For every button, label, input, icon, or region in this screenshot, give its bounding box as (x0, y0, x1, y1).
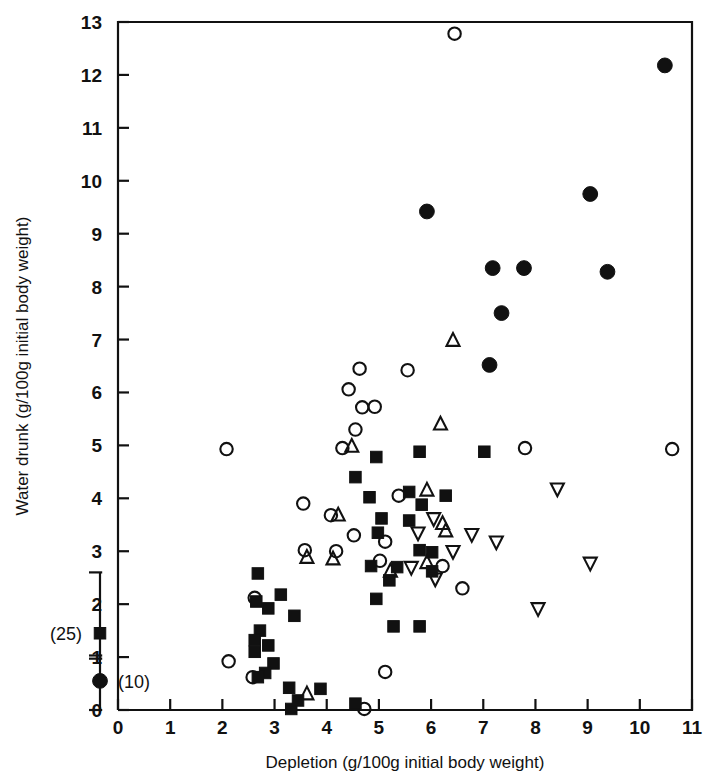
data-point-open-circle[interactable] (353, 362, 365, 374)
y-axis-tick-label: 13 (81, 12, 102, 33)
x-axis-tick-label: 11 (682, 717, 703, 738)
data-point-filled-circle[interactable] (420, 204, 435, 219)
data-point-open-circle[interactable] (222, 655, 234, 667)
data-point-open-circle[interactable] (297, 497, 309, 509)
data-point-filled-square[interactable] (249, 646, 261, 658)
data-point-open-triangle-down[interactable] (465, 529, 478, 542)
data-point-filled-circle[interactable] (657, 58, 672, 73)
data-point-filled-circle[interactable] (494, 306, 509, 321)
y-axis-tick-label: 6 (91, 382, 102, 403)
data-point-filled-square[interactable] (263, 640, 275, 652)
data-point-open-triangle-up[interactable] (300, 687, 313, 700)
data-point-filled-square[interactable] (315, 683, 327, 695)
y-axis-label: Water drunk (g/100g initial body weight) (13, 217, 32, 516)
data-point-filled-square[interactable] (371, 451, 383, 463)
x-axis-tick-label: 2 (217, 717, 228, 738)
data-point-open-circle[interactable] (369, 401, 381, 413)
chart-figure: 01234567891011121301234567891011Depletio… (0, 0, 712, 779)
data-point-open-triangle-down[interactable] (412, 527, 425, 540)
data-point-filled-square[interactable] (414, 446, 426, 458)
data-point-open-circle[interactable] (349, 423, 361, 435)
data-point-open-triangle-up[interactable] (447, 333, 460, 346)
data-point-filled-circle[interactable] (482, 358, 497, 373)
data-point-filled-square[interactable] (275, 589, 287, 601)
summary-marker-circle[interactable] (93, 673, 108, 688)
y-axis-tick-label: 9 (91, 224, 102, 245)
data-point-open-circle[interactable] (356, 401, 368, 413)
y-axis-tick-label: 5 (91, 435, 102, 456)
data-point-open-triangle-up[interactable] (420, 483, 433, 496)
data-point-filled-square[interactable] (403, 515, 415, 527)
data-point-filled-square[interactable] (365, 560, 377, 572)
data-point-open-triangle-down[interactable] (532, 603, 545, 616)
data-point-filled-square[interactable] (414, 621, 426, 633)
data-point-open-circle[interactable] (401, 364, 413, 376)
summary-label: (25) (50, 624, 82, 644)
data-point-open-triangle-down[interactable] (551, 484, 564, 497)
data-point-filled-square[interactable] (403, 486, 415, 498)
plot-frame (118, 22, 692, 710)
x-axis-label: Depletion (g/100g initial body weight) (266, 753, 545, 772)
data-point-open-circle[interactable] (456, 582, 468, 594)
data-point-filled-square[interactable] (263, 603, 275, 615)
data-point-filled-square[interactable] (283, 682, 295, 694)
data-point-open-circle[interactable] (379, 666, 391, 678)
x-axis-tick-label: 5 (374, 717, 385, 738)
x-axis-tick-label: 8 (530, 717, 541, 738)
data-point-filled-square[interactable] (440, 490, 452, 502)
data-point-open-triangle-down[interactable] (490, 536, 503, 549)
scatter-plot-svg: 01234567891011121301234567891011Depletio… (0, 0, 712, 779)
data-point-open-triangle-down[interactable] (584, 558, 597, 571)
data-point-filled-square[interactable] (414, 544, 426, 556)
summary-label: (10) (118, 672, 150, 692)
data-point-filled-square[interactable] (371, 593, 383, 605)
x-axis-tick-label: 3 (269, 717, 280, 738)
data-point-filled-square[interactable] (249, 634, 261, 646)
data-point-open-circle[interactable] (348, 529, 360, 541)
y-axis-tick-label: 4 (91, 488, 102, 509)
data-point-filled-square[interactable] (416, 499, 428, 511)
data-point-open-circle[interactable] (519, 442, 531, 454)
y-axis-tick-label: 12 (81, 65, 102, 86)
x-axis-tick-label: 7 (478, 717, 489, 738)
x-axis-tick-label: 4 (321, 717, 332, 738)
data-point-filled-square[interactable] (252, 568, 264, 580)
data-point-open-triangle-down[interactable] (405, 562, 418, 575)
data-point-filled-circle[interactable] (517, 261, 532, 276)
data-point-filled-square[interactable] (350, 471, 362, 483)
data-point-filled-square[interactable] (479, 446, 491, 458)
data-point-filled-square[interactable] (289, 610, 301, 622)
data-point-open-circle[interactable] (220, 443, 232, 455)
x-axis-tick-label: 9 (582, 717, 593, 738)
y-axis-tick-label: 8 (91, 277, 102, 298)
summary-marker-square[interactable] (94, 628, 106, 640)
data-point-filled-square[interactable] (350, 698, 362, 710)
y-axis-tick-label: 7 (91, 330, 102, 351)
data-point-open-circle[interactable] (666, 443, 678, 455)
data-point-filled-circle[interactable] (485, 261, 500, 276)
data-point-open-circle[interactable] (342, 383, 354, 395)
data-point-open-circle[interactable] (448, 27, 460, 39)
y-axis-tick-label: 10 (81, 171, 102, 192)
x-axis-tick-label: 6 (426, 717, 437, 738)
x-axis-tick-label: 1 (165, 717, 176, 738)
data-point-filled-square[interactable] (388, 621, 400, 633)
data-point-open-triangle-down[interactable] (447, 546, 460, 559)
x-axis-tick-label: 0 (113, 717, 124, 738)
y-axis-tick-label: 11 (82, 118, 103, 139)
data-point-filled-square[interactable] (364, 491, 376, 503)
data-point-open-triangle-up[interactable] (434, 417, 447, 430)
data-point-filled-square[interactable] (376, 513, 388, 525)
data-point-filled-square[interactable] (251, 596, 262, 608)
data-point-filled-square[interactable] (252, 671, 264, 683)
data-point-filled-square[interactable] (372, 527, 384, 539)
data-point-filled-circle[interactable] (583, 187, 598, 202)
data-point-filled-circle[interactable] (600, 264, 615, 279)
y-axis-tick-label: 3 (91, 541, 102, 562)
x-axis-tick-label: 10 (629, 717, 650, 738)
